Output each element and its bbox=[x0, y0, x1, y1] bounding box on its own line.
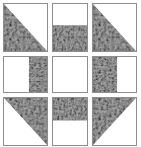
quilt-patch-bottom-center-edge: bottom-center-edge bbox=[52, 97, 88, 146]
patch-shape-bottom-center-edge bbox=[53, 98, 87, 145]
patch-shape-middle-right-edge bbox=[93, 57, 136, 92]
patch-shape-top-right-corner bbox=[93, 4, 136, 51]
quilt-patch-center-square: center-square bbox=[52, 56, 88, 93]
quilt-patch-top-left-corner: top-left-corner bbox=[3, 3, 48, 52]
quilt-patch-middle-right-edge: middle-right-edge bbox=[92, 56, 137, 93]
print-fabric-region bbox=[29, 57, 47, 92]
print-fabric-region bbox=[53, 25, 87, 51]
print-fabric-region bbox=[53, 98, 87, 121]
patch-shape-bottom-right-corner bbox=[93, 98, 136, 145]
plain-fabric-region bbox=[53, 57, 87, 92]
quilt-patch-bottom-left-corner: bottom-left-corner bbox=[3, 97, 48, 146]
quilt-patch-middle-left-edge: middle-left-edge bbox=[3, 56, 48, 93]
patch-shape-top-center-edge bbox=[53, 4, 87, 51]
quilt-grid: top-left-corner top-center-edge top-righ… bbox=[3, 3, 137, 141]
patch-shape-middle-left-edge bbox=[4, 57, 47, 92]
print-fabric-region bbox=[93, 57, 117, 92]
quilt-patch-top-center-edge: top-center-edge bbox=[52, 3, 88, 52]
patch-shape-bottom-left-corner bbox=[4, 98, 47, 145]
quilt-patch-bottom-right-corner: bottom-right-corner bbox=[92, 97, 137, 146]
patch-shape-top-left-corner bbox=[4, 4, 47, 51]
quilt-block-canvas: Patchwork Quilt Block top-left-corner to… bbox=[0, 0, 141, 147]
quilt-patch-top-right-corner: top-right-corner bbox=[92, 3, 137, 52]
patch-shape-center-square bbox=[53, 57, 87, 92]
